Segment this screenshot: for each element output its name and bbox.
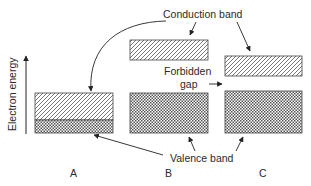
panel-a-conduction-band — [35, 93, 113, 120]
panel-c-label: C — [259, 167, 267, 179]
panel-a-valence-band — [35, 120, 113, 133]
conduction-arrow-c-icon — [237, 22, 250, 51]
valence-arrow-a-icon — [94, 135, 163, 155]
forbidden-gap-annotation: Forbidden gap — [164, 65, 222, 90]
band-diagram: Electron energy A B C Conduction band Fo… — [0, 0, 311, 186]
energy-axis: Electron energy — [6, 56, 26, 134]
conduction-arrow-b-icon — [190, 22, 196, 35]
valence-arrow-b-icon — [189, 137, 195, 151]
valence-band-annotation: Valence band — [94, 135, 243, 164]
panel-b-label: B — [165, 167, 172, 179]
forbidden-gap-label-line1: Forbidden — [164, 65, 211, 77]
panel-a: A — [35, 93, 113, 179]
valence-arrow-c-icon — [236, 137, 243, 151]
forbidden-gap-label-line2: gap — [180, 78, 198, 90]
panel-c: C — [225, 56, 302, 179]
panel-c-conduction-band — [225, 56, 302, 76]
panel-b-valence-band — [130, 93, 208, 133]
valence-band-label: Valence band — [170, 152, 234, 164]
conduction-band-label: Conduction band — [163, 8, 243, 20]
panel-c-valence-band — [225, 91, 302, 133]
panel-b-conduction-band — [130, 40, 208, 60]
axis-label: Electron energy — [6, 57, 18, 131]
panel-a-label: A — [70, 167, 77, 179]
